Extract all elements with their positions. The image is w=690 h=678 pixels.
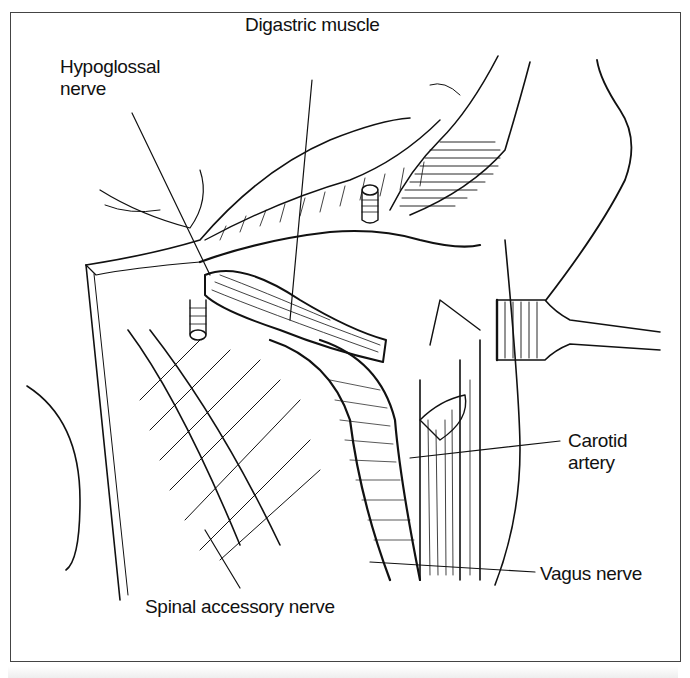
leader-spinal-accessory	[205, 530, 240, 588]
label-digastric-muscle: Digastric muscle	[245, 14, 380, 36]
truncated-caption	[8, 666, 678, 678]
leader-digastric	[290, 80, 312, 320]
skin-flap	[86, 118, 410, 265]
vessel-stump	[362, 185, 378, 195]
shoulder-contour	[27, 386, 80, 570]
label-carotid-line2: artery	[568, 452, 615, 474]
jugular-vein	[270, 340, 390, 580]
label-carotid-line1: Carotid	[568, 430, 627, 452]
digastric-muscle	[205, 271, 386, 362]
label-hypoglossal-line2: nerve	[60, 78, 106, 100]
carotid-column	[420, 340, 480, 580]
label-vagus-nerve: Vagus nerve	[540, 563, 642, 585]
fascia-strip	[390, 56, 498, 210]
label-spinal-accessory-nerve: Spinal accessory nerve	[145, 596, 335, 618]
label-hypoglossal-line1: Hypoglossal	[60, 56, 160, 78]
leader-vagus	[370, 562, 535, 572]
leader-carotid	[410, 441, 560, 458]
leader-hypoglossal	[132, 113, 210, 275]
neck-contour	[546, 60, 631, 300]
